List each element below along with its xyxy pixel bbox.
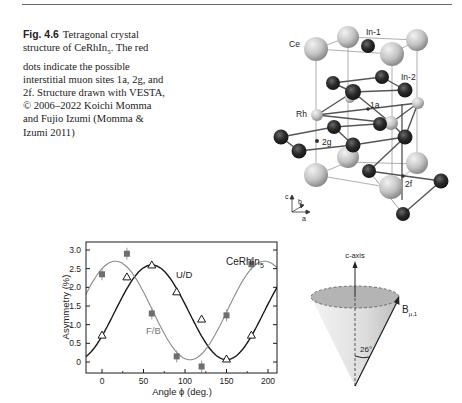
field-label: Bμ,1	[402, 304, 418, 317]
c-axis-label: c-axis	[345, 251, 365, 260]
angle-label: 26°	[360, 345, 372, 354]
c-axis-arrowhead	[353, 261, 358, 268]
cone-diagram: c-axis Bμ,1 26°	[0, 0, 462, 403]
